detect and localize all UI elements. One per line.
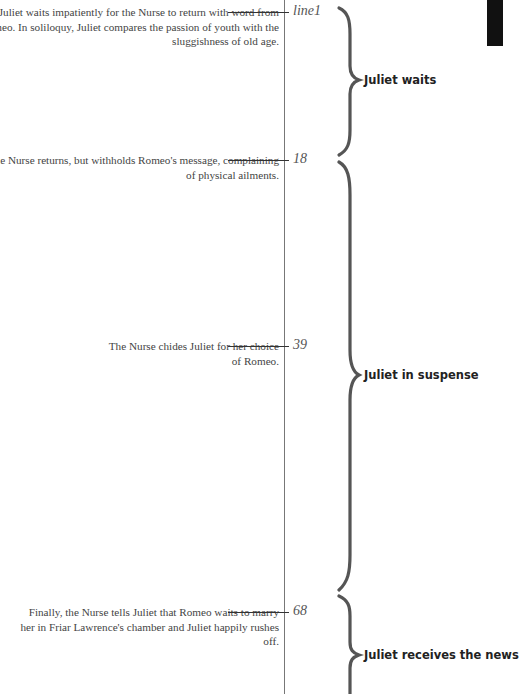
section-label: Juliet in suspense [364,368,479,382]
brace-icon [339,8,359,155]
brace-icon [339,162,359,590]
page-tab-marker [487,0,503,46]
section-label: Juliet receives the news [364,648,519,662]
brace-icon [339,596,359,694]
section-label: Juliet waits [364,73,436,87]
